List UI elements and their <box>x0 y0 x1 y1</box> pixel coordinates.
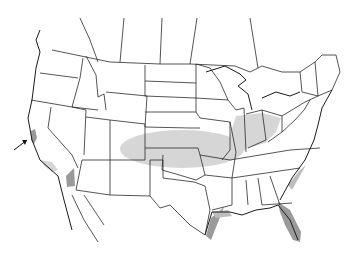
range-kansas-oklahoma <box>120 130 244 168</box>
range-map <box>0 0 351 262</box>
range-california-central <box>31 129 37 144</box>
range-colorado-river <box>66 168 75 187</box>
range-ohio-valley <box>230 113 281 156</box>
arrow-icon <box>14 140 27 150</box>
political-borders <box>28 18 340 242</box>
range-florida <box>278 202 301 242</box>
